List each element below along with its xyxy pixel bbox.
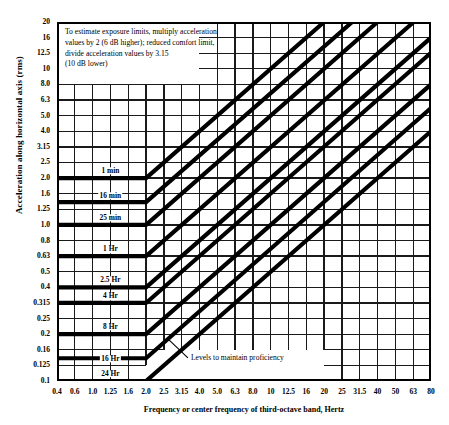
y-tick-16: 16	[0, 34, 54, 42]
vibration-exposure-chart: Acceleration along horizontal axis (rms)…	[0, 0, 449, 425]
x-tick-1-0: 1.0	[88, 388, 97, 396]
x-tick-0-6: 0.6	[70, 388, 79, 396]
x-tick-80: 80	[427, 388, 435, 396]
y-tick-0-25: 0.25	[0, 315, 54, 323]
x-tick-1-25: 1.25	[104, 388, 117, 396]
curve-label-1-hr: 1 Hr	[102, 245, 119, 252]
x-axis-title: Frequency or center frequency of third-o…	[57, 405, 431, 414]
curve-label-4-hr: 4 Hr	[102, 292, 119, 299]
y-tick-0-16: 0.16	[0, 346, 54, 354]
x-tick-1-6: 1.6	[124, 388, 133, 396]
x-tick-4-0: 4.0	[195, 388, 204, 396]
y-tick-0-1: 0.1	[0, 377, 54, 385]
y-tick-10: 10	[0, 65, 54, 73]
x-tick-20: 20	[320, 388, 328, 396]
x-tick-16: 16	[303, 388, 311, 396]
y-tick-1-6: 1.6	[0, 190, 54, 198]
y-tick-1-25: 1.25	[0, 206, 54, 214]
x-tick-8-0: 8.0	[248, 388, 257, 396]
x-tick-63: 63	[409, 388, 417, 396]
y-axis-tick-labels: 201612.5108.06.35.04.03.152.52.01.61.251…	[0, 0, 54, 425]
estimate-note: To estimate exposure limits, multiply ac…	[65, 27, 293, 70]
plot-area: To estimate exposure limits, multiply ac…	[57, 22, 431, 381]
y-tick-0-8: 0.8	[0, 237, 54, 245]
x-tick-31-5: 31.5	[353, 388, 366, 396]
x-tick-3-15: 3.15	[175, 388, 188, 396]
proficiency-callout-label: Levels to maintain proficiency	[191, 354, 284, 362]
curve-label-16-min: 16 min	[99, 192, 123, 199]
curve-label-1-min: 1 min	[100, 167, 120, 174]
y-tick-0-125: 0.125	[0, 362, 54, 370]
estimate-note-line-1: To estimate exposure limits, multiply ac…	[65, 27, 293, 38]
curve-label-25-min: 25 min	[99, 214, 123, 221]
curve-label-24-hr: 24 Hr	[100, 370, 120, 377]
y-tick-1-0: 1.0	[0, 221, 54, 229]
curve-label-2-5-hr: 2.5 Hr	[99, 276, 121, 283]
y-tick-3-15: 3.15	[0, 143, 54, 151]
x-tick-10: 10	[267, 388, 275, 396]
y-tick-0-63: 0.63	[0, 252, 54, 260]
x-tick-2-5: 2.5	[159, 388, 168, 396]
estimate-note-line-4: (10 dB lower)	[65, 59, 293, 70]
y-tick-0-315: 0.315	[0, 299, 54, 307]
y-tick-0-5: 0.5	[0, 268, 54, 276]
x-tick-0-4: 0.4	[52, 388, 61, 396]
y-tick-12-5: 12.5	[0, 49, 54, 57]
y-tick-0-2: 0.2	[0, 330, 54, 338]
y-tick-4-0: 4.0	[0, 128, 54, 136]
x-tick-25: 25	[338, 388, 346, 396]
x-tick-2-0: 2.0	[141, 388, 150, 396]
x-tick-6-3: 6.3	[230, 388, 239, 396]
y-tick-6-3: 6.3	[0, 96, 54, 104]
y-tick-5-0: 5.0	[0, 112, 54, 120]
x-tick-5-0: 5.0	[213, 388, 222, 396]
curve-label-8-hr: 8 Hr	[102, 323, 119, 330]
y-tick-2-5: 2.5	[0, 159, 54, 167]
estimate-note-line-3: divide acceleration values by 3.15	[65, 49, 293, 60]
x-tick-12-5: 12.5	[282, 388, 295, 396]
y-tick-8-0: 8.0	[0, 81, 54, 89]
curve-label-16-hr: 16 Hr	[100, 355, 120, 362]
x-tick-50: 50	[392, 388, 400, 396]
estimate-note-line-2: values by 2 (6 dB higher); reduced comfo…	[65, 38, 293, 49]
y-tick-20: 20	[0, 18, 54, 26]
y-tick-0-4: 0.4	[0, 284, 54, 292]
x-tick-40: 40	[374, 388, 382, 396]
y-tick-2-0: 2.0	[0, 174, 54, 182]
